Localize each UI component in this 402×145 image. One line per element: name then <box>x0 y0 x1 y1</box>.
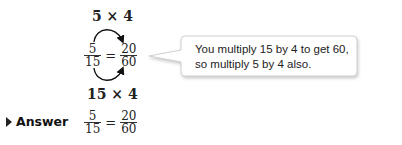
answer-heading: Answer <box>6 114 68 129</box>
fraction-right: 20 60 <box>120 43 137 68</box>
denominator: 15 <box>84 55 101 68</box>
equals-sign: = <box>105 115 116 130</box>
numerator: 5 <box>88 110 98 122</box>
answer-label: Answer <box>16 114 68 129</box>
fraction-left: 5 15 <box>84 43 101 68</box>
denominator: 60 <box>120 122 137 135</box>
callout-text: You multiply 15 by 4 to get 60, so multi… <box>195 42 349 72</box>
fraction-left: 5 15 <box>84 110 101 135</box>
answer-equation: 5 15 = 20 60 <box>84 110 137 135</box>
bottom-multiplication-expression: 15 × 4 <box>87 86 138 102</box>
numerator: 20 <box>120 110 137 122</box>
callout-line-1: You multiply 15 by 4 to get 60, <box>195 42 349 57</box>
numerator: 5 <box>88 43 98 55</box>
numerator: 20 <box>120 43 137 55</box>
denominator: 15 <box>84 122 101 135</box>
equals-sign: = <box>105 48 116 63</box>
denominator: 60 <box>120 55 137 68</box>
explanation-callout: You multiply 15 by 4 to get 60, so multi… <box>147 34 362 86</box>
callout-line-2: so multiply 5 by 4 also. <box>195 57 349 72</box>
top-multiplication-expression: 5 × 4 <box>92 8 133 24</box>
worked-equation: 5 15 = 20 60 <box>84 43 137 68</box>
triangle-right-icon <box>6 117 12 127</box>
fraction-right: 20 60 <box>120 110 137 135</box>
